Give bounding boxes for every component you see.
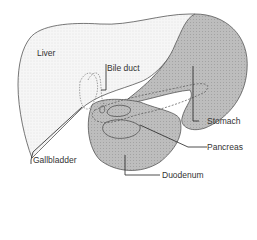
- label-bile-duct: Bile duct: [107, 64, 140, 73]
- label-gallbladder: Gallbladder: [33, 156, 76, 165]
- label-duodenum: Duodenum: [162, 171, 204, 180]
- label-pancreas: Pancreas: [207, 143, 243, 152]
- label-stomach: Stomach: [207, 117, 241, 126]
- label-liver: Liver: [37, 49, 55, 58]
